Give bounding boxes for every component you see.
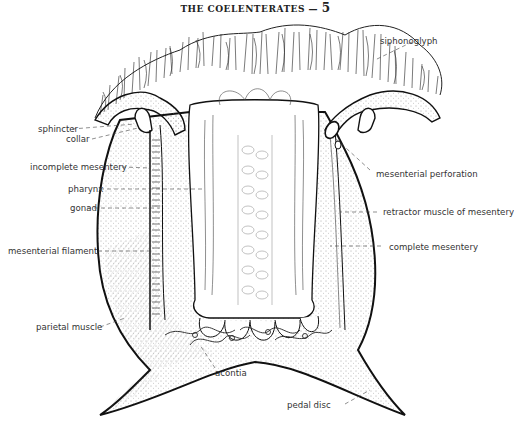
label-siphonoglyph: siphonoglyph [380,36,438,46]
label-collar: collar [66,134,90,144]
label-acontia: acontia [215,368,247,378]
label-mesenterial-perforation: mesenterial perforation [376,169,478,179]
label-sphincter: sphincter [38,124,78,134]
label-pedal-disc: pedal disc [287,400,331,410]
label-parietal-muscle: parietal muscle [36,322,102,332]
label-mesenterial-filament: mesenterial filament [8,246,97,256]
label-gonad: gonad [70,203,97,213]
label-retractor-muscle: retractor muscle of mesentery [383,207,514,217]
label-pharynx: pharynx [68,184,103,194]
label-incomplete-mesentery: incomplete mesentery [30,162,127,172]
label-complete-mesentery: complete mesentery [389,242,478,252]
